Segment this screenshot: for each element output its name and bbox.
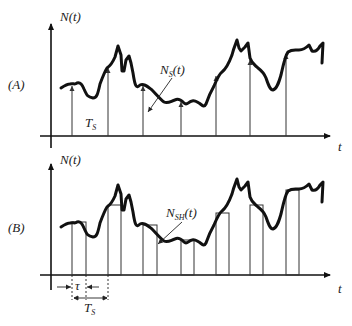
- period-label-a: TS: [85, 116, 96, 129]
- y-label-arg: (t): [69, 9, 81, 24]
- panel-label-b: (B): [8, 221, 25, 234]
- y-axis-label-a: N(t): [60, 10, 81, 23]
- sampling-diagram: [0, 0, 352, 326]
- curve-label-b: NSH(t): [166, 206, 197, 219]
- hold-pulses-b: [72, 190, 299, 275]
- x-axis-label-a: t: [338, 140, 342, 153]
- x-axis-label-b: t: [338, 282, 342, 295]
- signal-curve-a: [61, 40, 323, 106]
- curve-label-a: NS(t): [160, 63, 185, 76]
- period-label-b: TS: [84, 301, 95, 314]
- y-axis-label-b: N(t): [60, 153, 81, 166]
- panel-a: [40, 24, 330, 148]
- curve-pointer-a: [148, 78, 172, 112]
- panel-label-a: (A): [8, 78, 25, 91]
- pulse-width-label-b: τ: [75, 279, 80, 292]
- dimension-markers-b: [57, 275, 108, 300]
- y-label-main: N: [60, 9, 69, 24]
- panel-b: [40, 164, 330, 300]
